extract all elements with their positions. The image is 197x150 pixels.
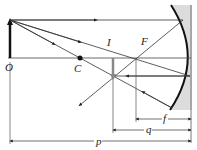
label-f: f	[163, 112, 168, 124]
center-of-curvature-dot	[78, 56, 83, 61]
label-focal-point: F	[140, 35, 148, 47]
label-q: q	[146, 123, 152, 135]
label-p: p	[95, 135, 102, 147]
concave-mirror-diagram: O C I F f q p	[0, 0, 197, 150]
ray-center-arrow-out	[143, 92, 172, 108]
label-image: I	[106, 36, 112, 48]
label-center: C	[74, 62, 82, 74]
label-object: O	[5, 61, 13, 73]
ray-reflected-through-focus	[80, 20, 183, 105]
